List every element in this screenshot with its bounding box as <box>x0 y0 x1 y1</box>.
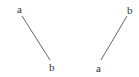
segment-right: a b <box>96 4 133 74</box>
segment-right-line <box>101 16 127 60</box>
diagram-canvas: a b a b <box>0 0 139 77</box>
segment-left-line <box>22 16 50 60</box>
segment-right-end-label: b <box>127 4 133 16</box>
segment-left: a b <box>17 3 55 73</box>
segment-left-start-label: a <box>17 3 22 15</box>
segment-left-end-label: b <box>49 61 55 73</box>
segment-right-start-label: a <box>96 62 101 74</box>
